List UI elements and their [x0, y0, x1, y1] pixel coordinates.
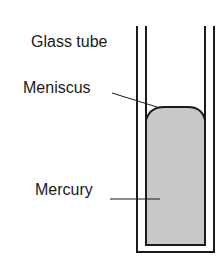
mercury-column [146, 107, 205, 245]
mercury-label: Mercury [35, 182, 93, 198]
diagram-canvas: Glass tube Meniscus Mercury [0, 0, 223, 265]
meniscus-label: Meniscus [23, 80, 91, 96]
meniscus-leader-line [112, 93, 157, 107]
glass-tube-label: Glass tube [31, 34, 107, 50]
